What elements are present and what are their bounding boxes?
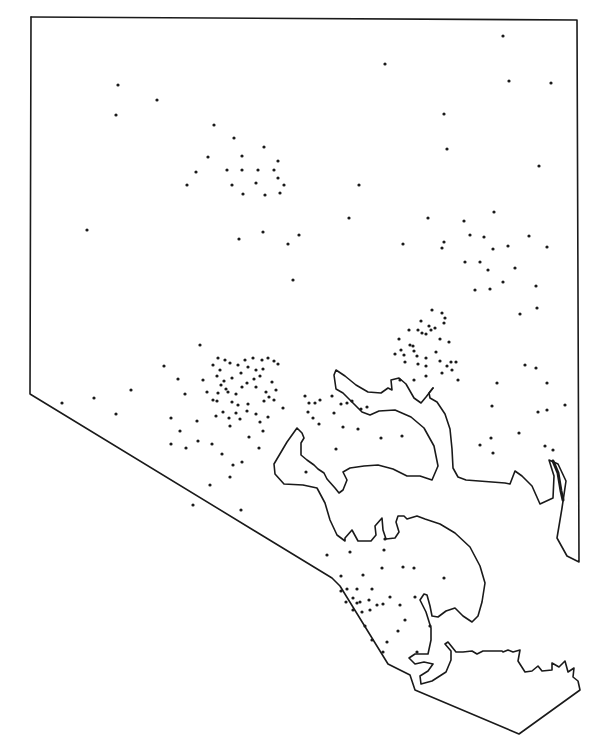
data-point: [261, 230, 264, 233]
data-point: [272, 168, 275, 171]
data-point: [351, 596, 354, 599]
data-point: [251, 356, 254, 359]
data-point: [403, 618, 406, 621]
data-point: [454, 360, 457, 363]
data-point: [345, 587, 348, 590]
data-point: [492, 210, 495, 213]
data-point: [339, 574, 342, 577]
data-point: [278, 191, 281, 194]
data-point: [468, 233, 471, 236]
data-point: [563, 403, 566, 406]
data-point: [221, 410, 224, 413]
data-point: [407, 328, 410, 331]
data-point: [266, 415, 269, 418]
data-point: [218, 368, 221, 371]
data-point: [169, 442, 172, 445]
data-point: [211, 398, 214, 401]
data-point: [416, 362, 419, 365]
data-point: [370, 587, 373, 590]
data-point: [281, 406, 284, 409]
data-point: [239, 371, 242, 374]
data-point: [398, 378, 401, 381]
data-point: [239, 508, 242, 511]
data-point: [198, 343, 201, 346]
data-point: [334, 447, 337, 450]
data-point: [206, 155, 209, 158]
data-point: [258, 420, 261, 423]
data-point: [195, 419, 198, 422]
data-point: [490, 404, 493, 407]
data-point: [116, 83, 119, 86]
data-point: [545, 381, 548, 384]
data-point: [262, 399, 265, 402]
data-point: [236, 403, 239, 406]
data-point: [257, 446, 260, 449]
data-point: [535, 306, 538, 309]
data-point: [276, 362, 279, 365]
data-point: [330, 394, 333, 397]
data-point: [419, 319, 422, 322]
data-point: [245, 409, 248, 412]
data-point: [282, 183, 285, 186]
data-point: [212, 123, 215, 126]
data-point: [426, 216, 429, 219]
data-point: [276, 176, 279, 179]
data-point: [332, 411, 335, 414]
data-point: [222, 379, 225, 382]
data-point: [478, 260, 481, 263]
data-point: [442, 321, 445, 324]
data-point: [219, 383, 222, 386]
data-point: [216, 356, 219, 359]
data-point: [433, 326, 436, 329]
data-point: [379, 436, 382, 439]
data-point: [258, 374, 261, 377]
data-points-layer: [60, 34, 566, 653]
data-point: [254, 368, 257, 371]
data-point: [416, 328, 419, 331]
data-point: [236, 363, 239, 366]
data-point: [247, 435, 250, 438]
data-point: [501, 34, 504, 37]
data-point: [230, 400, 233, 403]
data-point: [397, 337, 400, 340]
data-point: [92, 396, 95, 399]
data-point: [385, 640, 388, 643]
data-point: [438, 337, 441, 340]
data-point: [311, 416, 314, 419]
data-point: [230, 183, 233, 186]
data-point: [495, 381, 498, 384]
data-point: [513, 266, 516, 269]
data-point: [361, 573, 364, 576]
data-point: [517, 431, 520, 434]
data-point: [272, 398, 275, 401]
data-point: [445, 364, 448, 367]
data-point: [363, 624, 366, 627]
data-point: [482, 235, 485, 238]
data-point: [345, 401, 348, 404]
data-point: [380, 566, 383, 569]
data-point: [350, 399, 353, 402]
data-point: [424, 356, 427, 359]
data-point: [381, 650, 384, 653]
data-point: [191, 503, 194, 506]
data-point: [303, 394, 306, 397]
data-point: [408, 343, 411, 346]
data-point: [286, 242, 289, 245]
data-point: [527, 234, 530, 237]
data-point: [536, 410, 539, 413]
data-point: [462, 219, 465, 222]
data-point: [230, 376, 233, 379]
data-point: [344, 600, 347, 603]
data-point: [440, 246, 443, 249]
data-point: [347, 216, 350, 219]
data-point: [355, 601, 358, 604]
data-point: [401, 565, 404, 568]
data-point: [261, 367, 264, 370]
data-point: [228, 424, 231, 427]
data-point: [225, 168, 228, 171]
data-point: [270, 380, 273, 383]
data-point: [357, 183, 360, 186]
data-point: [325, 553, 328, 556]
data-point: [215, 399, 218, 402]
data-point: [339, 402, 342, 405]
